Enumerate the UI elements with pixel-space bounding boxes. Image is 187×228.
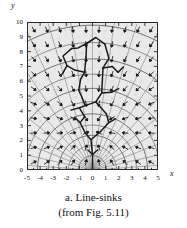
- y-tick-3: 3: [7, 122, 23, 130]
- y-axis-label: y: [11, 1, 15, 10]
- y-tick-2: 2: [7, 136, 23, 144]
- y-tick-7: 7: [7, 62, 23, 70]
- y-tick-8: 8: [7, 48, 23, 56]
- y-tick-6: 6: [7, 77, 23, 85]
- caption-line-2: (from Fig. 5.11): [0, 205, 187, 220]
- y-tick-4: 4: [7, 107, 23, 115]
- x-tick--5: -5: [20, 174, 34, 182]
- x-tick--3: -3: [46, 174, 60, 182]
- y-tick-0: 0: [7, 166, 23, 174]
- x-tick-3: 3: [125, 174, 139, 182]
- flow-net-svg: [27, 22, 158, 170]
- x-tick-0: 0: [86, 174, 100, 182]
- y-tick-1: 1: [7, 151, 23, 159]
- x-tick-5: 5: [151, 174, 165, 182]
- x-tick-1: 1: [99, 174, 113, 182]
- x-tick--2: -2: [59, 174, 73, 182]
- x-tick--4: -4: [33, 174, 47, 182]
- y-tick-9: 9: [7, 33, 23, 41]
- x-tick--1: -1: [72, 174, 86, 182]
- x-tick-2: 2: [112, 174, 126, 182]
- figure-caption: a. Line-sinks (from Fig. 5.11): [0, 190, 187, 220]
- x-axis-label: x: [170, 169, 174, 178]
- x-tick-4: 4: [138, 174, 152, 182]
- y-tick-5: 5: [7, 92, 23, 100]
- figure-panel: y x 012345678910 -5-4-3-2-1012345 a. Lin…: [0, 0, 187, 228]
- flow-net-plot: [27, 22, 158, 170]
- y-tick-10: 10: [7, 18, 23, 26]
- caption-line-1: a. Line-sinks: [0, 190, 187, 205]
